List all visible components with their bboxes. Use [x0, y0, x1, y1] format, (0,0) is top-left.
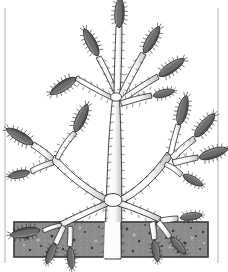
figure-root: Branched plant with terminal cones roote…	[0, 0, 228, 272]
upper-whorl-node	[111, 93, 122, 101]
plant-diagram-svg	[0, 0, 228, 272]
stem-through-soil	[103, 222, 121, 258]
lower-whorl-node	[104, 194, 122, 207]
